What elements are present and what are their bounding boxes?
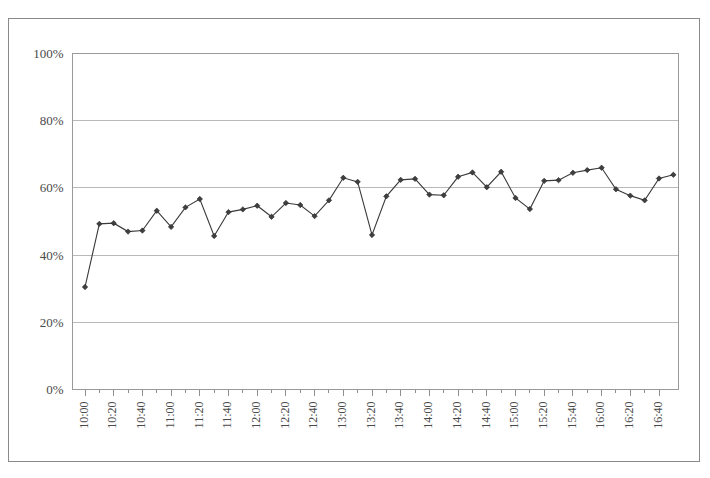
x-axis-tick-labels: 10:0010:2010:4011:0011:2011:4012:0012:20… <box>77 402 665 429</box>
x-tick-label: 11:20 <box>192 402 206 429</box>
line-chart: 0%20%40%60%80%100% 10:0010:2010:4011:001… <box>0 0 710 478</box>
data-point-marker <box>542 178 547 183</box>
x-tick-label: 11:00 <box>163 402 177 429</box>
x-tick-label: 16:40 <box>651 402 665 429</box>
y-tick-label: 40% <box>40 248 64 263</box>
x-tick-label: 13:00 <box>335 402 349 429</box>
data-point-marker <box>671 172 676 177</box>
data-point-marker <box>197 196 202 201</box>
data-point-marker <box>341 175 346 180</box>
gridlines <box>73 54 679 390</box>
data-point-marker <box>585 167 590 172</box>
data-point-marker <box>355 179 360 184</box>
plot-frame <box>73 54 679 390</box>
x-tick-label: 12:00 <box>249 402 263 429</box>
x-tick-label: 12:40 <box>306 402 320 429</box>
series-markers <box>82 165 676 290</box>
x-tick-label: 14:00 <box>421 402 435 429</box>
y-tick-label: 0% <box>46 382 64 397</box>
x-tick-label: 15:40 <box>565 402 579 429</box>
y-tick-label: 80% <box>40 113 64 128</box>
x-tick-label: 11:40 <box>220 402 234 429</box>
x-tick-label: 10:00 <box>77 402 91 429</box>
x-axis-ticks <box>85 390 659 396</box>
x-tick-label: 14:40 <box>479 402 493 429</box>
x-tick-label: 10:40 <box>134 402 148 429</box>
x-tick-label: 15:20 <box>536 402 550 429</box>
data-point-marker <box>125 229 130 234</box>
data-point-marker <box>570 170 575 175</box>
x-tick-label: 10:20 <box>105 402 119 429</box>
x-tick-label: 13:20 <box>364 402 378 429</box>
data-point-marker <box>82 284 87 289</box>
y-tick-label: 20% <box>40 315 64 330</box>
plot-area-border <box>73 54 679 390</box>
data-point-marker <box>97 221 102 226</box>
y-axis-tick-labels: 0%20%40%60%80%100% <box>33 46 64 397</box>
data-point-marker <box>226 209 231 214</box>
data-point-marker <box>628 193 633 198</box>
data-point-marker <box>111 220 116 225</box>
data-point-marker <box>211 233 216 238</box>
x-tick-label: 12:20 <box>278 402 292 429</box>
y-tick-label: 100% <box>33 46 64 61</box>
x-tick-label: 13:40 <box>392 402 406 429</box>
x-tick-label: 16:20 <box>622 402 636 429</box>
data-point-marker <box>240 207 245 212</box>
data-point-marker <box>556 177 561 182</box>
data-point-marker <box>369 232 374 237</box>
x-tick-label: 15:00 <box>507 402 521 429</box>
x-tick-label: 14:20 <box>450 402 464 429</box>
y-tick-label: 60% <box>40 180 64 195</box>
x-tick-label: 16:00 <box>593 402 607 429</box>
